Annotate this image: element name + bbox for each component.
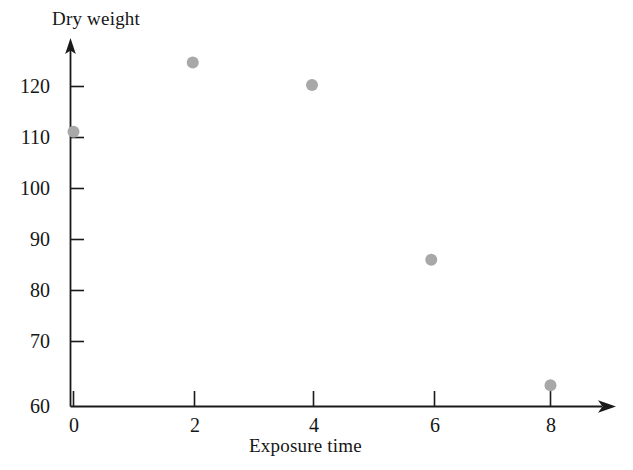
plot-canvas [0,0,633,470]
x-axis [71,400,617,413]
data-point [545,379,557,391]
x-axis-ticks [74,391,551,407]
y-axis-ticks [71,87,85,342]
data-point-group [68,57,557,392]
x-tick-label-4: 4 [299,414,329,437]
x-tick-label-2: 2 [180,414,210,437]
y-tick-label-90: 90 [6,228,50,251]
x-tick-label-8: 8 [536,414,566,437]
y-tick-label-110: 110 [6,126,50,149]
y-tick-label-60: 60 [6,395,50,418]
data-point [306,79,318,91]
data-point [425,254,437,266]
y-axis [65,38,76,407]
y-tick-label-120: 120 [6,75,50,98]
scatter-plot-figure: Dry weight Exposure time 120 110 100 90 … [0,0,633,470]
x-axis-title: Exposure time [249,435,362,457]
x-tick-label-0: 0 [59,414,89,437]
data-point [187,57,199,69]
y-tick-label-70: 70 [6,330,50,353]
y-tick-label-100: 100 [6,177,50,200]
y-axis-title: Dry weight [52,8,140,30]
data-point [68,126,80,138]
y-tick-label-80: 80 [6,279,50,302]
x-tick-label-6: 6 [420,414,450,437]
